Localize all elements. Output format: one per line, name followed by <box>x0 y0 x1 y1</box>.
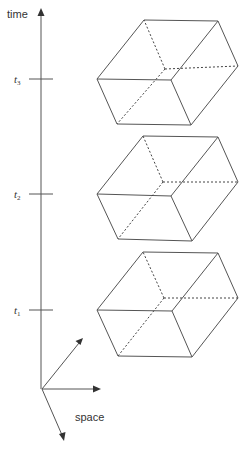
box-front-edge <box>171 80 191 125</box>
hidden-edge <box>143 252 164 298</box>
hidden-edge <box>118 298 164 356</box>
box-front-edges <box>97 253 218 311</box>
tick-t3: t3 <box>14 73 53 87</box>
box-at-t3 <box>97 20 238 125</box>
tick-label-t1: t1 <box>14 304 21 318</box>
hidden-edge <box>118 182 163 239</box>
box-front-edges <box>97 21 218 80</box>
tick-t2: t2 <box>14 188 53 202</box>
spacetime-diagram: time t3 t2 t1 space <box>0 0 249 450</box>
tick-label-t3: t3 <box>14 73 21 87</box>
time-axis: time <box>7 8 45 389</box>
box-outline <box>97 252 238 357</box>
tick-t1: t1 <box>14 304 53 318</box>
space-axis-depth-arrowhead-icon <box>76 338 84 345</box>
time-axis-arrowhead-icon <box>38 8 45 16</box>
box-front-edge <box>172 311 192 357</box>
space-axes: space <box>42 338 104 441</box>
tick-label-t2: t2 <box>14 188 21 202</box>
box-outline <box>97 136 238 241</box>
hidden-edge <box>165 66 238 69</box>
box-front-edges <box>97 137 218 196</box>
box-outline <box>97 20 238 125</box>
space-axis-x-arrowhead-icon <box>93 386 101 393</box>
space-axis-label: space <box>75 411 104 423</box>
hidden-edge <box>117 69 165 124</box>
box-at-t2 <box>97 136 238 241</box>
box-front-edge <box>171 196 192 241</box>
space-axis-depth-line <box>42 343 79 389</box>
time-axis-label: time <box>7 8 28 20</box>
box-at-t1 <box>97 252 238 357</box>
space-axis-y-arrowhead-icon <box>59 432 66 441</box>
hidden-edge <box>144 20 165 69</box>
space-axis-y-line <box>42 389 62 435</box>
hidden-edge <box>143 136 163 182</box>
